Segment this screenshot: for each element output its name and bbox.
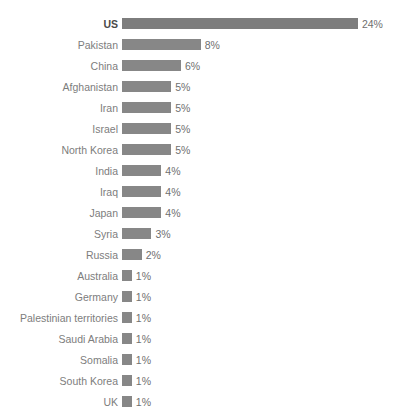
bar bbox=[122, 186, 161, 197]
bar-chart-row: North Korea5% bbox=[0, 139, 399, 160]
bar bbox=[122, 39, 201, 50]
bar-chart-row: Saudi Arabia1% bbox=[0, 328, 399, 349]
bar-value-label: 1% bbox=[132, 375, 151, 387]
bar-chart-row: Australia1% bbox=[0, 265, 399, 286]
bar-chart-row: Syria3% bbox=[0, 223, 399, 244]
bar-value-label: 4% bbox=[161, 207, 180, 219]
bar bbox=[122, 81, 171, 92]
bar-track: 5% bbox=[122, 144, 399, 156]
bar-value-label: 5% bbox=[171, 81, 190, 93]
bar-chart: US24%Pakistan8%China6%Afghanistan5%Iran5… bbox=[0, 0, 399, 413]
bar-chart-row: Iraq4% bbox=[0, 181, 399, 202]
bar-value-label: 1% bbox=[132, 312, 151, 324]
bar-value-label: 1% bbox=[132, 396, 151, 408]
bar-track: 4% bbox=[122, 186, 399, 198]
bar bbox=[122, 123, 171, 134]
bar-category-label: Pakistan bbox=[0, 39, 122, 51]
bar-track: 1% bbox=[122, 333, 399, 345]
bar-value-label: 5% bbox=[171, 144, 190, 156]
bar-value-label: 5% bbox=[171, 102, 190, 114]
bar-track: 1% bbox=[122, 312, 399, 324]
bar-track: 2% bbox=[122, 249, 399, 261]
bar-track: 1% bbox=[122, 354, 399, 366]
bar-chart-row: Somalia1% bbox=[0, 349, 399, 370]
bar bbox=[122, 333, 132, 344]
bar bbox=[122, 60, 181, 71]
bar-category-label: US bbox=[0, 18, 122, 30]
bar bbox=[122, 291, 132, 302]
bar-category-label: Germany bbox=[0, 291, 122, 303]
bar-category-label: Afghanistan bbox=[0, 81, 122, 93]
bar bbox=[122, 207, 161, 218]
bar-chart-row: Afghanistan5% bbox=[0, 76, 399, 97]
bar-value-label: 4% bbox=[161, 165, 180, 177]
bar-category-label: Japan bbox=[0, 207, 122, 219]
bar bbox=[122, 354, 132, 365]
bar-track: 4% bbox=[122, 207, 399, 219]
bar-category-label: Palestinian territories bbox=[0, 312, 122, 324]
bar-category-label: India bbox=[0, 165, 122, 177]
bar-category-label: Iraq bbox=[0, 186, 122, 198]
bar-chart-row: Russia2% bbox=[0, 244, 399, 265]
bar-track: 1% bbox=[122, 375, 399, 387]
bar-track: 1% bbox=[122, 291, 399, 303]
bar-category-label: Somalia bbox=[0, 354, 122, 366]
bar-value-label: 2% bbox=[142, 249, 161, 261]
bar-value-label: 8% bbox=[201, 39, 220, 51]
bar-chart-row: China6% bbox=[0, 55, 399, 76]
bar bbox=[122, 249, 142, 260]
bar-chart-row: India4% bbox=[0, 160, 399, 181]
bar-category-label: Syria bbox=[0, 228, 122, 240]
bar-value-label: 1% bbox=[132, 291, 151, 303]
bar-value-label: 1% bbox=[132, 333, 151, 345]
bar bbox=[122, 102, 171, 113]
bar-track: 3% bbox=[122, 228, 399, 240]
bar bbox=[122, 228, 151, 239]
bar-track: 5% bbox=[122, 123, 399, 135]
bar-category-label: Iran bbox=[0, 102, 122, 114]
bar bbox=[122, 144, 171, 155]
bar-track: 6% bbox=[122, 60, 399, 72]
bar-chart-row: UK1% bbox=[0, 391, 399, 412]
bar-chart-row: Palestinian territories1% bbox=[0, 307, 399, 328]
bar-track: 5% bbox=[122, 102, 399, 114]
bar-value-label: 1% bbox=[132, 270, 151, 282]
bar bbox=[122, 165, 161, 176]
bar-chart-row: Israel5% bbox=[0, 118, 399, 139]
bar-chart-row: Japan4% bbox=[0, 202, 399, 223]
bar bbox=[122, 270, 132, 281]
bar-value-label: 3% bbox=[151, 228, 170, 240]
bar-track: 24% bbox=[122, 18, 399, 30]
bar-chart-row: Iran5% bbox=[0, 97, 399, 118]
bar-category-label: Saudi Arabia bbox=[0, 333, 122, 345]
bar bbox=[122, 375, 132, 386]
bar-value-label: 24% bbox=[358, 18, 383, 30]
bar-chart-row: South Korea1% bbox=[0, 370, 399, 391]
bar-category-label: Russia bbox=[0, 249, 122, 261]
bar-track: 1% bbox=[122, 270, 399, 282]
bar-category-label: North Korea bbox=[0, 144, 122, 156]
bar-track: 4% bbox=[122, 165, 399, 177]
bar-chart-row: Germany1% bbox=[0, 286, 399, 307]
bar-category-label: Australia bbox=[0, 270, 122, 282]
bar bbox=[122, 312, 132, 323]
bar-value-label: 4% bbox=[161, 186, 180, 198]
bar bbox=[122, 396, 132, 407]
bar-value-label: 1% bbox=[132, 354, 151, 366]
bar-track: 1% bbox=[122, 396, 399, 408]
bar-category-label: South Korea bbox=[0, 375, 122, 387]
bar-value-label: 5% bbox=[171, 123, 190, 135]
bar-chart-rows: US24%Pakistan8%China6%Afghanistan5%Iran5… bbox=[0, 13, 399, 412]
bar bbox=[122, 18, 358, 29]
bar-track: 5% bbox=[122, 81, 399, 93]
bar-value-label: 6% bbox=[181, 60, 200, 72]
bar-chart-row: US24% bbox=[0, 13, 399, 34]
bar-chart-row: Pakistan8% bbox=[0, 34, 399, 55]
bar-track: 8% bbox=[122, 39, 399, 51]
bar-category-label: China bbox=[0, 60, 122, 72]
bar-category-label: UK bbox=[0, 396, 122, 408]
bar-category-label: Israel bbox=[0, 123, 122, 135]
